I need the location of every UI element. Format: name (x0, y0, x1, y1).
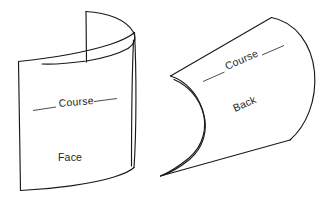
face-view-label: Face (58, 151, 82, 163)
face-course-leader-left (33, 107, 56, 111)
back-course-label: Course (223, 47, 260, 72)
back-course-leader-left (203, 72, 225, 82)
face-panel-inner-fold-edge (132, 40, 134, 166)
face-panel-right-fold-edge (134, 33, 136, 168)
face-panel-top-edge (19, 33, 135, 62)
back-panel-left-s-curve-inner (161, 80, 206, 177)
back-course-leader-right (262, 46, 284, 56)
back-panel-right-arc-edge (272, 18, 315, 141)
back-panel-left-s-curve-outer (161, 76, 205, 176)
back-panel-bottom-edge (161, 140, 291, 176)
diagram-canvas: Course Face Course Back (0, 0, 328, 202)
face-course-label: Course (58, 94, 94, 109)
back-panel-top-edge (171, 18, 272, 77)
face-course-leader-right (94, 99, 117, 102)
face-panel-seam-line (86, 12, 87, 63)
face-panel-back-rim-arc (86, 12, 135, 49)
fabric-course-diagram: Course Face Course Back (0, 0, 328, 202)
face-panel-bottom-edge (21, 168, 135, 191)
back-view-label: Back (231, 93, 258, 114)
face-panel-group: Course Face (19, 12, 136, 191)
back-panel-group: Course Back (161, 18, 315, 177)
face-panel-left-edge (19, 62, 21, 191)
